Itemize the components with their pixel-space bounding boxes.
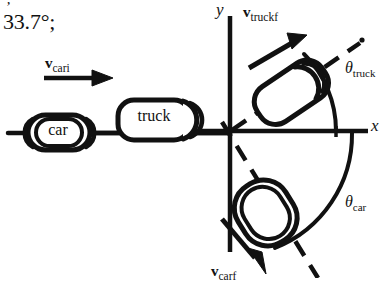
y-axis-label: y (216, 1, 224, 18)
v-truckf-subscript: truckf (251, 11, 278, 23)
v-carf-subscript: carf (219, 270, 237, 282)
v-cari-subscript: cari (53, 62, 70, 74)
theta-truck-label: θtruck (345, 60, 375, 79)
note-angle-value: 33.7°; (3, 11, 55, 33)
truck-after-collision (247, 53, 335, 131)
theta-car-subscript: car (353, 201, 366, 213)
v-truckf-label: vtruckf (243, 5, 278, 23)
v-carf-label: vcarf (211, 264, 236, 282)
v-truckf-symbol: v (243, 4, 251, 20)
v-cari-symbol: v (45, 55, 53, 71)
theta-truck-symbol: θ (345, 59, 353, 76)
x-axis-label: x (371, 117, 379, 134)
v-cari-label: vcari (45, 56, 70, 74)
car-box-label: car (36, 122, 80, 138)
theta-car-label: θcar (345, 194, 366, 213)
v-carf-symbol: v (211, 263, 219, 279)
theta-truck-subscript: truck (353, 67, 376, 79)
theta-car-symbol: θ (345, 193, 353, 210)
truck-box-label: truck (126, 108, 182, 124)
